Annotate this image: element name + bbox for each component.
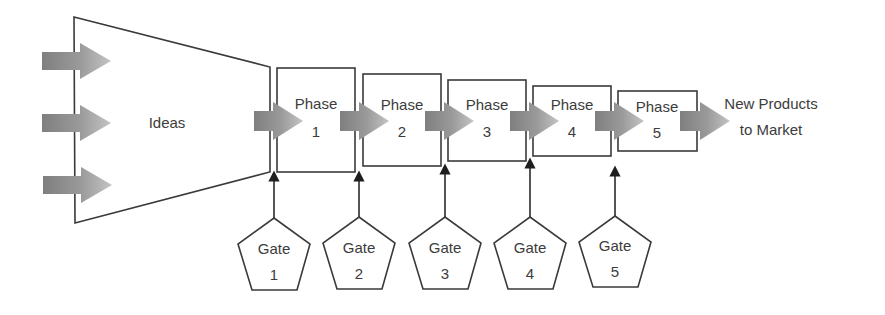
gate-4-label: Gate	[514, 239, 547, 256]
gate-1-pentagon: Gate 1	[238, 218, 310, 290]
gate-2-label: Gate	[343, 239, 376, 256]
gate-5-number: 5	[611, 263, 619, 280]
gate-2-number: 2	[355, 265, 363, 282]
ideas-label: Ideas	[149, 114, 186, 131]
gate-3-label: Gate	[429, 239, 462, 256]
gate-3-pentagon: Gate 3	[409, 217, 481, 289]
output-line-1: New Products	[724, 95, 817, 112]
phase-1-label: Phase	[295, 95, 338, 112]
gate-2-pentagon: Gate 2	[323, 217, 395, 289]
phase-2-number: 2	[398, 123, 406, 140]
gate-4-pentagon: Gate 4	[494, 217, 566, 289]
output-line-2: to Market	[740, 121, 803, 138]
phase-2-label: Phase	[381, 96, 424, 113]
phase-5-label: Phase	[636, 98, 679, 115]
phase-1-number: 1	[312, 123, 320, 140]
gate-5-pentagon: Gate 5	[579, 216, 651, 287]
output-label: New Products to Market	[724, 95, 817, 138]
phase-5-number: 5	[653, 124, 661, 141]
phase-4-number: 4	[568, 123, 576, 140]
phase-3-label: Phase	[466, 96, 509, 113]
phase-4-label: Phase	[551, 96, 594, 113]
gate-3-number: 3	[441, 265, 449, 282]
gate-4-number: 4	[526, 265, 534, 282]
stage-gate-diagram: Ideas Phase 1 Phase 2 Phase 3 Phase 4 Ph…	[0, 0, 885, 315]
phase-3-number: 3	[483, 123, 491, 140]
gate-1-number: 1	[270, 266, 278, 283]
gate-5-label: Gate	[599, 237, 632, 254]
gate-1-label: Gate	[258, 240, 291, 257]
